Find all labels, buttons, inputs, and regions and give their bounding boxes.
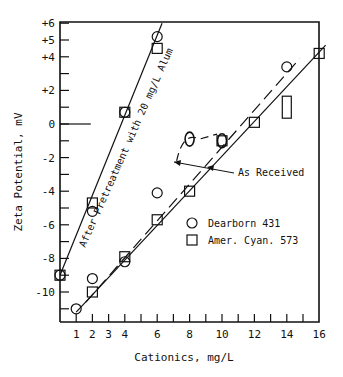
- as-received-annotation: As Received: [174, 160, 304, 178]
- x-tick-label: 16: [313, 328, 326, 341]
- x-tick-label: 12: [248, 328, 261, 341]
- fit-line: [86, 58, 300, 302]
- alum-annotation: After Pretreatment with 20 mg/L Alum: [77, 46, 175, 248]
- square-marker: [282, 96, 291, 118]
- y-axis-title: Zeta Potential, mV: [12, 112, 25, 232]
- y-tick-label: 0: [48, 118, 55, 131]
- y-tick-label: +6: [42, 17, 55, 30]
- y-tick-label: -6: [42, 219, 55, 232]
- circle-marker: [185, 132, 194, 146]
- zeta-potential-chart: +6+5+4+20-2-4-6-8-10 12346810121416 Zeta…: [0, 0, 343, 377]
- y-tick-label: -10: [35, 286, 55, 299]
- x-tick-label: 4: [121, 328, 128, 341]
- legend: Dearborn 431 Amer. Cyan. 573: [187, 218, 298, 246]
- circle-marker-icon: [187, 218, 197, 228]
- x-tick-label: 10: [215, 328, 228, 341]
- legend-label-dearborn: Dearborn 431: [208, 218, 280, 229]
- fit-line-knee: [177, 134, 218, 161]
- x-tick-label: 6: [154, 328, 161, 341]
- y-tick-label: +5: [42, 34, 55, 47]
- x-tick-label: 14: [280, 328, 294, 341]
- circle-marker: [87, 274, 97, 284]
- arrowhead-icon: [174, 160, 181, 166]
- y-tick-label: -8: [42, 252, 55, 265]
- y-axis-ticks: +6+5+4+20-2-4-6-8-10: [35, 17, 91, 309]
- x-tick-label: 1: [73, 328, 80, 341]
- x-tick-label: 2: [89, 328, 96, 341]
- circle-marker: [152, 188, 162, 198]
- y-tick-label: +2: [42, 84, 55, 97]
- circle-marker: [282, 62, 292, 72]
- y-tick-label: -2: [42, 152, 55, 165]
- x-axis-ticks: 12346810121416: [73, 314, 326, 341]
- y-tick-label: -4: [42, 185, 56, 198]
- legend-label-amer-cyan: Amer. Cyan. 573: [208, 235, 298, 246]
- x-tick-label: 8: [186, 328, 193, 341]
- as-received-label: As Received: [238, 167, 304, 178]
- square-marker-icon: [187, 235, 197, 245]
- x-tick-label: 3: [105, 328, 112, 341]
- y-tick-label: +4: [42, 51, 56, 64]
- x-axis-title: Cationics, mg/L: [134, 351, 234, 364]
